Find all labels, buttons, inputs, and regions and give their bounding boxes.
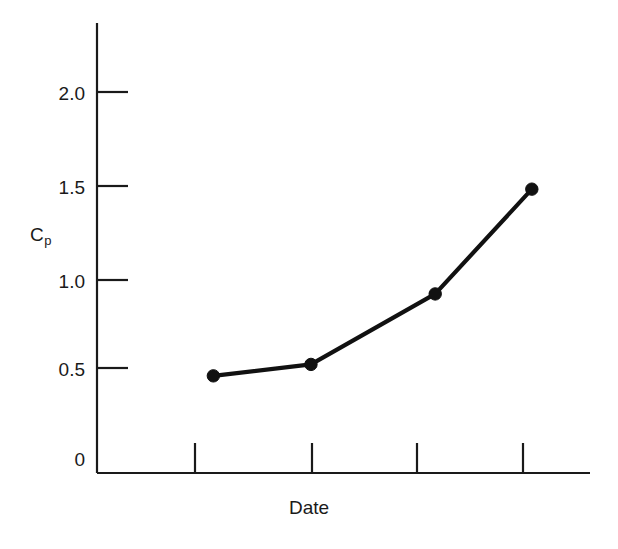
chart-figure: 2.0 1.5 1.0 0.5 0 Cp Date [0, 0, 618, 549]
y-axis-title: Cp [30, 225, 51, 244]
y-tick-label-1-5: 1.5 [23, 178, 85, 197]
y-tick-label-1-0: 1.0 [23, 272, 85, 291]
y-tick-label-0-5: 0.5 [23, 360, 85, 379]
chart-plot-area [0, 0, 618, 549]
y-tick-label-0: 0 [23, 450, 85, 469]
data-point [429, 288, 441, 300]
x-axis-title: Date [0, 498, 618, 517]
y-axis-title-base: C [30, 224, 44, 245]
data-series-markers [207, 183, 538, 382]
data-series-line [213, 189, 531, 376]
data-point [305, 358, 317, 370]
data-point [526, 183, 538, 195]
y-axis-title-subscript: p [44, 233, 51, 248]
data-point [207, 370, 219, 382]
y-tick-label-2-0: 2.0 [23, 84, 85, 103]
